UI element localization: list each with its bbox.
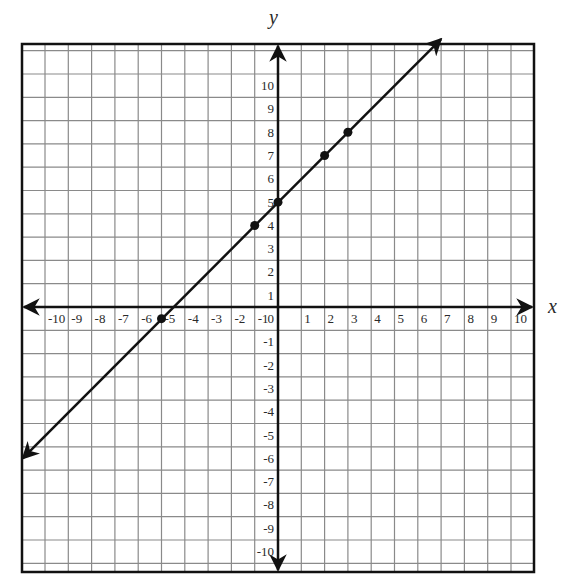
y-tick-label: -9: [263, 521, 274, 536]
x-tick-label: -8: [95, 311, 106, 326]
x-tick-label: -2: [234, 311, 245, 326]
y-tick-label: -10: [257, 544, 274, 559]
x-tick-label: 9: [491, 311, 498, 326]
y-tick-label: 0: [268, 311, 275, 326]
data-point: [343, 128, 352, 137]
x-tick-label: 5: [398, 311, 405, 326]
x-tick-label: 6: [421, 311, 428, 326]
y-tick-label: 4: [268, 218, 275, 233]
x-tick-label: 3: [351, 311, 358, 326]
x-tick-label: 8: [467, 311, 474, 326]
y-tick-label: -1: [263, 334, 274, 349]
x-axis-label: x: [547, 295, 557, 317]
data-point: [157, 314, 166, 323]
x-tick-label: -9: [71, 311, 82, 326]
coordinate-plane: -10-9-8-7-6-5-4-3-2-112345678910-10-9-8-…: [0, 0, 564, 586]
y-tick-label: -4: [263, 404, 274, 419]
axes: [24, 46, 532, 570]
y-tick-label: 9: [268, 101, 275, 116]
data-point: [320, 151, 329, 160]
x-tick-label: -3: [211, 311, 222, 326]
y-tick-label: 10: [261, 78, 274, 93]
y-tick-label: 6: [268, 171, 275, 186]
x-tick-label: -7: [118, 311, 129, 326]
y-tick-label: 1: [268, 288, 275, 303]
x-tick-label: -4: [188, 311, 199, 326]
y-tick-label: -5: [263, 428, 274, 443]
y-tick-label: -7: [263, 474, 274, 489]
x-tick-label: 7: [444, 311, 451, 326]
x-tick-label: -10: [48, 311, 65, 326]
x-tick-label: 1: [304, 311, 311, 326]
y-tick-label: 2: [268, 264, 275, 279]
y-axis-label: y: [267, 6, 278, 29]
y-tick-label: -6: [263, 451, 274, 466]
y-tick-label: 7: [268, 148, 275, 163]
y-tick-label: -3: [263, 381, 274, 396]
y-tick-label: 3: [268, 241, 275, 256]
x-tick-label: -6: [141, 311, 152, 326]
y-tick-label: 8: [268, 125, 275, 140]
x-tick-label: 2: [328, 311, 335, 326]
data-point: [250, 221, 259, 230]
x-tick-label: 4: [374, 311, 381, 326]
y-tick-label: -2: [263, 358, 274, 373]
y-tick-label: -8: [263, 497, 274, 512]
tick-labels: -10-9-8-7-6-5-4-3-2-112345678910-10-9-8-…: [48, 78, 527, 559]
data-point: [274, 198, 283, 207]
x-tick-label: 10: [514, 311, 527, 326]
